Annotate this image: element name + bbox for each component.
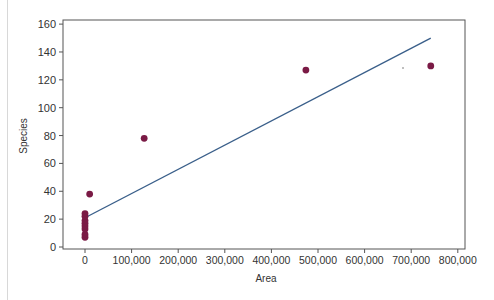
y-tick-label: 40 [44,185,56,197]
data-point [427,63,434,70]
x-tick-label: 700,000 [392,254,430,266]
data-point [86,191,93,198]
y-tick-label: 60 [44,157,56,169]
y-tick-label: 80 [44,130,56,142]
x-axis: 0100,000200,000300,000400,000500,000600,… [82,249,477,266]
artifact-dot [402,67,404,69]
x-tick-label: 500,000 [299,254,337,266]
x-tick-label: 800,000 [439,254,477,266]
regression-line [85,38,431,218]
y-tick-label: 20 [44,213,56,225]
x-axis-label: Area [255,273,277,284]
y-tick-label: 140 [38,46,56,58]
x-tick-label: 300,000 [206,254,244,266]
y-tick-label: 160 [38,18,56,30]
y-axis-label: Species [18,118,29,154]
y-axis: 020406080100120140160 [38,18,63,253]
data-point [82,210,89,217]
data-point [141,135,148,142]
data-point [302,67,309,74]
x-tick-label: 400,000 [252,254,290,266]
y-tick-label: 0 [50,241,56,253]
y-tick-label: 120 [38,74,56,86]
plot-border [63,20,465,249]
x-tick-label: 100,000 [113,254,151,266]
scatter-chart: 020406080100120140160 0100,000200,000300… [0,0,494,300]
x-tick-label: 0 [82,254,88,266]
x-tick-label: 200,000 [159,254,197,266]
y-tick-label: 100 [38,102,56,114]
plot-frame [63,20,465,249]
x-tick-label: 600,000 [346,254,384,266]
data-series [82,38,435,241]
